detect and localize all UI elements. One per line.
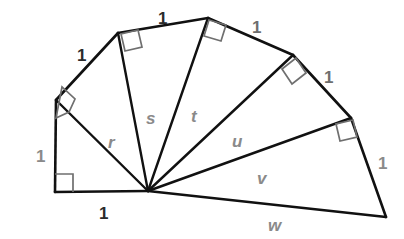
spiral-of-theodorus-svg bbox=[0, 0, 404, 239]
spoke-u bbox=[148, 55, 293, 191]
edge-square-bottom bbox=[55, 191, 148, 192]
hypotenuse-label-w: w bbox=[268, 217, 281, 234]
hypotenuse-spokes bbox=[56, 18, 351, 191]
hypotenuse-label-s: s bbox=[146, 110, 155, 127]
edge-unit-6 bbox=[148, 191, 386, 217]
unit-label-right: 1 bbox=[324, 69, 333, 86]
hypotenuse-label-v: v bbox=[257, 170, 266, 187]
unit-label-left: 1 bbox=[36, 148, 45, 165]
edge-unit-4 bbox=[293, 55, 351, 118]
hypotenuse-label-t: t bbox=[191, 108, 197, 125]
ra-vertex-3-icon bbox=[204, 20, 226, 41]
spoke-v bbox=[148, 118, 351, 191]
ra-vertex-1-icon bbox=[56, 87, 75, 118]
ra-vertex-5-icon bbox=[336, 120, 357, 141]
figure-root: 1 1 1 1 1 1 1 r s t u v w bbox=[0, 0, 404, 239]
ra-square-corner-icon bbox=[55, 174, 73, 192]
spoke-t bbox=[148, 18, 208, 191]
hypotenuse-label-u: u bbox=[232, 133, 242, 150]
outer-edges bbox=[55, 18, 386, 217]
unit-label-far-right: 1 bbox=[378, 155, 387, 172]
unit-label-bottom: 1 bbox=[99, 205, 108, 222]
right-angle-marks bbox=[55, 20, 357, 192]
unit-label-top-right: 1 bbox=[252, 19, 261, 36]
unit-label-upper-left: 1 bbox=[77, 47, 86, 64]
hypotenuse-label-r: r bbox=[108, 134, 115, 151]
ra-vertex-2-icon bbox=[121, 30, 142, 51]
edge-square-left bbox=[55, 100, 56, 192]
unit-label-top: 1 bbox=[158, 10, 167, 27]
